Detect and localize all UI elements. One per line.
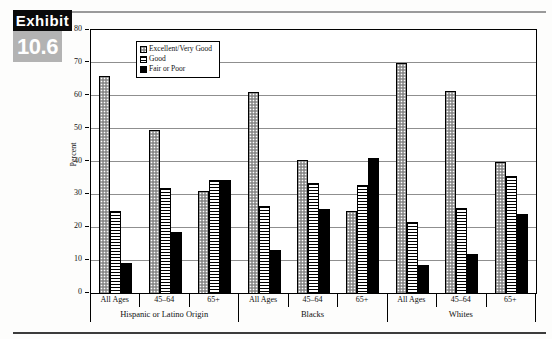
bar-fair-or-poor-cat2: [220, 180, 231, 293]
x-group-label: Hispanic or Latino Origin: [90, 309, 238, 321]
y-tick-label-30: 30: [60, 189, 82, 197]
bar-excellent-very-good-cat0: [99, 76, 110, 293]
x-group-separator: [387, 293, 388, 322]
y-tick-label-0: 0: [60, 288, 82, 296]
bar-excellent-very-good-cat5: [346, 211, 357, 293]
bar-good-cat8: [506, 176, 517, 293]
legend-label: Fair or Poor: [149, 65, 185, 73]
bar-excellent-very-good-cat1: [149, 130, 160, 293]
x-group-separator: [238, 293, 239, 322]
bar-good-cat7: [456, 208, 467, 293]
y-tick-label-20: 20: [60, 222, 82, 230]
bar-excellent-very-good-cat8: [495, 162, 506, 294]
bar-good-cat4: [308, 183, 319, 293]
x-category-label: All Ages: [90, 295, 139, 307]
y-tick-mark-10: [85, 259, 89, 260]
chart-legend: Excellent/Very GoodGoodFair or Poor: [136, 41, 220, 78]
y-tick-mark-30: [85, 193, 89, 194]
bar-fair-or-poor-cat1: [171, 232, 182, 293]
exhibit-number-box: 10.6: [13, 31, 62, 62]
exhibit-number: 10.6: [17, 34, 58, 60]
x-category-separator: [436, 293, 437, 307]
y-tick-label-40: 40: [60, 157, 82, 165]
x-category-label: All Ages: [238, 295, 287, 307]
x-category-separator: [486, 293, 487, 307]
legend-item-0: Excellent/Very Good: [140, 45, 216, 53]
exhibit-page: Exhibit 10.6 Percent 01020304050607080 A…: [0, 0, 552, 339]
legend-swatch-pat-dots: [140, 46, 147, 53]
y-tick-mark-40: [85, 160, 89, 161]
x-group-separator: [535, 293, 536, 322]
bar-fair-or-poor-cat7: [467, 254, 478, 293]
legend-swatch-pat-solid: [140, 66, 147, 73]
bar-fair-or-poor-cat8: [517, 214, 528, 293]
bar-fair-or-poor-cat4: [319, 209, 330, 293]
bar-excellent-very-good-cat6: [396, 63, 407, 293]
x-category-label: 65+: [337, 295, 386, 307]
legend-swatch-pat-stripes: [140, 56, 147, 63]
y-tick-label-80: 80: [60, 25, 82, 33]
legend-label: Good: [149, 55, 166, 63]
top-rule: [72, 11, 546, 13]
x-category-separator: [189, 293, 190, 307]
bar-good-cat3: [259, 206, 270, 293]
bottom-rule: [13, 332, 546, 334]
bar-excellent-very-good-cat7: [445, 91, 456, 293]
x-category-separator: [337, 293, 338, 307]
x-group-label: Blacks: [238, 309, 386, 321]
y-tick-mark-80: [85, 29, 89, 30]
y-tick-mark-50: [85, 127, 89, 128]
y-tick-label-70: 70: [60, 58, 82, 66]
x-group-label: Whites: [387, 309, 535, 321]
bar-excellent-very-good-cat4: [297, 160, 308, 293]
bar-good-cat6: [407, 222, 418, 293]
x-group-separator: [90, 293, 91, 322]
bar-fair-or-poor-cat3: [270, 250, 281, 293]
bar-good-cat1: [160, 188, 171, 293]
legend-label: Excellent/Very Good: [149, 45, 212, 53]
x-category-separator: [288, 293, 289, 307]
bar-good-cat0: [110, 211, 121, 293]
y-tick-mark-60: [85, 94, 89, 95]
x-category-label: 45–64: [288, 295, 337, 307]
bar-excellent-very-good-cat3: [248, 92, 259, 293]
legend-item-2: Fair or Poor: [140, 65, 216, 73]
y-tick-mark-20: [85, 226, 89, 227]
gridline-60: [91, 95, 536, 96]
gridline-50: [91, 128, 536, 129]
bar-fair-or-poor-cat0: [121, 263, 132, 293]
y-tick-label-50: 50: [60, 124, 82, 132]
x-category-label: 65+: [486, 295, 535, 307]
y-tick-mark-0: [85, 292, 89, 293]
y-tick-label-60: 60: [60, 91, 82, 99]
x-category-separator: [139, 293, 140, 307]
y-tick-label-10: 10: [60, 255, 82, 263]
y-axis-title: Percent: [69, 140, 78, 170]
x-category-label: 45–64: [436, 295, 485, 307]
bar-good-cat2: [209, 180, 220, 293]
y-tick-mark-70: [85, 61, 89, 62]
legend-item-1: Good: [140, 55, 216, 63]
bar-fair-or-poor-cat6: [418, 265, 429, 293]
bar-fair-or-poor-cat5: [368, 158, 379, 293]
bar-good-cat5: [357, 185, 368, 293]
x-category-label: 45–64: [139, 295, 188, 307]
x-category-label: 65+: [189, 295, 238, 307]
x-category-label: All Ages: [387, 295, 436, 307]
bar-excellent-very-good-cat2: [198, 191, 209, 293]
